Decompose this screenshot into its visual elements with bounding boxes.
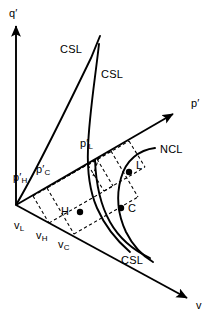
point-H-label: H: [61, 206, 69, 217]
axis-group: [16, 26, 187, 298]
csl-projection-qp-label: CSL: [60, 44, 82, 55]
v-axis-label: v: [196, 300, 202, 311]
p-axis-tick-l: p′L: [80, 138, 93, 151]
csl-projection-vp-label: CSL: [121, 255, 143, 266]
v-axis-tick-l: vL: [14, 220, 24, 233]
v-axis-tick-c: vC: [58, 239, 70, 252]
ncl-curve-label: NCL: [160, 144, 183, 155]
point-C-marker: [118, 205, 124, 211]
construction-lines-group: [33, 141, 145, 234]
point-H-marker: [77, 209, 83, 215]
diagram-canvas: [0, 0, 216, 323]
state-diagram-figure: q′ p′ v CSL CSL CSL NCL L C H p′H p′C p′…: [0, 0, 216, 323]
p-axis-label: p′: [191, 98, 199, 109]
p-axis-tick-c: p′C: [36, 164, 50, 177]
point-L-label: L: [136, 160, 142, 171]
v-axis-tick-h: vH: [36, 230, 48, 243]
point-C-label: C: [128, 203, 136, 214]
point-L-marker: [126, 169, 132, 175]
p-axis-tick-h: p′H: [13, 172, 27, 185]
csl-space-curve-label: CSL: [101, 69, 123, 80]
q-axis-label: q′: [9, 8, 17, 19]
